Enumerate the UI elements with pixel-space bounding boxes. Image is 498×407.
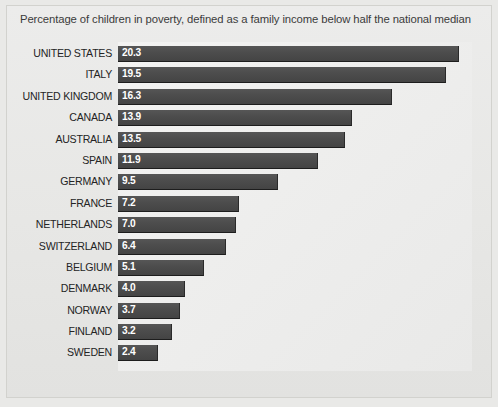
bar-row: FRANCE7.2 <box>0 195 498 216</box>
bar-row: DENMARK4.0 <box>0 280 498 301</box>
bar-container: 5.1 <box>118 260 204 277</box>
bar-row: UNITED STATES20.3 <box>0 45 498 66</box>
bar-row: NORWAY3.7 <box>0 302 498 323</box>
bar-value-label: 19.5 <box>122 68 141 79</box>
category-label: ITALY <box>0 68 112 80</box>
bar-row: CANADA13.9 <box>0 109 498 130</box>
bar-container: 3.2 <box>118 324 172 341</box>
category-label: GERMANY <box>0 175 112 187</box>
category-label: NORWAY <box>0 304 112 316</box>
category-label: SWITZERLAND <box>0 240 112 252</box>
bar-value-label: 13.5 <box>122 133 141 144</box>
bar-row: NETHERLANDS7.0 <box>0 216 498 237</box>
bar: 2.4 <box>118 345 158 361</box>
bar-value-label: 3.2 <box>122 325 136 336</box>
bar-row: FINLAND3.2 <box>0 323 498 344</box>
category-label: BELGIUM <box>0 261 112 273</box>
bar: 3.2 <box>118 324 172 340</box>
bar-row: BELGIUM5.1 <box>0 259 498 280</box>
bar: 9.5 <box>118 174 278 190</box>
chart-figure: Percentage of children in poverty, defin… <box>0 0 498 407</box>
category-label: UNITED KINGDOM <box>0 90 112 102</box>
bar-row: SPAIN11.9 <box>0 152 498 173</box>
bar-container: 3.7 <box>118 303 180 320</box>
bar: 7.0 <box>118 217 236 233</box>
category-label: CANADA <box>0 111 112 123</box>
bar: 16.3 <box>118 89 392 105</box>
bar-value-label: 11.9 <box>122 154 140 165</box>
category-label: UNITED STATES <box>0 47 112 59</box>
bar-value-label: 5.1 <box>122 261 136 272</box>
bar-container: 20.3 <box>118 46 459 63</box>
bar: 19.5 <box>118 67 446 83</box>
bar-container: 2.4 <box>118 345 158 362</box>
bar-container: 13.5 <box>118 132 345 149</box>
bar-value-label: 2.4 <box>122 346 136 357</box>
bar-container: 19.5 <box>118 67 446 84</box>
bar-value-label: 6.4 <box>122 240 136 251</box>
bar-rows: UNITED STATES20.3ITALY19.5UNITED KINGDOM… <box>0 45 498 375</box>
category-label: SPAIN <box>0 154 112 166</box>
bar: 6.4 <box>118 239 226 255</box>
bar-container: 11.9 <box>118 153 318 170</box>
category-label: DENMARK <box>0 282 112 294</box>
bar-row: ITALY19.5 <box>0 66 498 87</box>
chart-title: Percentage of children in poverty, defin… <box>20 13 480 25</box>
bar: 3.7 <box>118 303 180 319</box>
category-label: AUSTRALIA <box>0 133 112 145</box>
category-label: FRANCE <box>0 197 112 209</box>
bar-row: SWITZERLAND6.4 <box>0 238 498 259</box>
bar-container: 6.4 <box>118 239 226 256</box>
bar-row: SWEDEN2.4 <box>0 344 498 365</box>
bar-container: 13.9 <box>118 110 352 127</box>
bar: 4.0 <box>118 281 185 297</box>
bar-value-label: 9.5 <box>122 175 136 186</box>
category-label: NETHERLANDS <box>0 218 112 230</box>
bar: 11.9 <box>118 153 318 169</box>
bar: 5.1 <box>118 260 204 276</box>
bar: 13.9 <box>118 110 352 126</box>
bar-container: 7.2 <box>118 196 239 213</box>
bar-value-label: 16.3 <box>122 90 141 101</box>
bar-value-label: 20.3 <box>122 47 141 58</box>
category-label: SWEDEN <box>0 346 112 358</box>
bar-value-label: 7.0 <box>122 218 136 229</box>
bar-value-label: 7.2 <box>122 197 136 208</box>
bar: 7.2 <box>118 196 239 212</box>
bar-container: 4.0 <box>118 281 185 298</box>
bar-value-label: 13.9 <box>122 111 141 122</box>
bar-container: 7.0 <box>118 217 236 234</box>
bar-row: GERMANY9.5 <box>0 173 498 194</box>
bar-value-label: 4.0 <box>122 282 136 293</box>
bar: 20.3 <box>118 46 459 62</box>
bar: 13.5 <box>118 132 345 148</box>
bar-container: 16.3 <box>118 89 392 106</box>
category-label: FINLAND <box>0 325 112 337</box>
bar-row: UNITED KINGDOM16.3 <box>0 88 498 109</box>
bar-container: 9.5 <box>118 174 278 191</box>
bar-value-label: 3.7 <box>122 304 136 315</box>
bar-row: AUSTRALIA13.5 <box>0 131 498 152</box>
